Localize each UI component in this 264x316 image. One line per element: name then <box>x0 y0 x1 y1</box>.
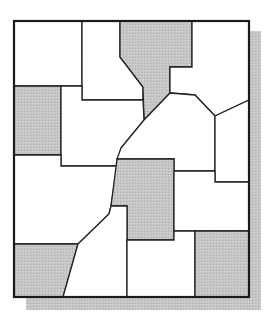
drop-shadow-right <box>250 31 261 310</box>
map-regions <box>14 21 249 297</box>
map-region-r14 <box>127 231 195 297</box>
drop-shadow-bottom <box>26 298 261 310</box>
map-region-r5-shaded <box>14 86 61 155</box>
map-region-r15-shaded <box>195 231 249 297</box>
region-map <box>0 0 264 316</box>
map-region-r1 <box>14 21 82 86</box>
